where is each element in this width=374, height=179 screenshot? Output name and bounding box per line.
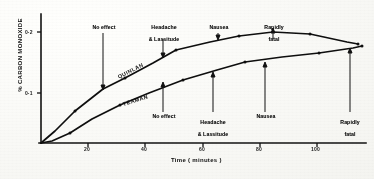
- annotation-top-rapidly-fatal-line1: Rapidly: [264, 24, 283, 30]
- y-axis-title: % CARBON MONOXIDE: [17, 5, 23, 105]
- annotation-top-rapidly-fatal-line2: fatal: [268, 36, 279, 42]
- y-tick-label-0-1: 0·1: [25, 90, 33, 96]
- annotation-bottom-nausea: Nausea: [246, 113, 286, 119]
- annotation-top-headache-line1: Headache: [151, 24, 176, 30]
- annotation-arrows-bottom: [161, 48, 352, 112]
- annotation-top-rapidly-fatal: Rapidly fatal: [255, 18, 293, 42]
- chart-svg: [0, 0, 374, 179]
- annotation-top-headache: Headache & Lassitude: [141, 18, 187, 42]
- x-axis-title: Time ( minutes ): [171, 157, 222, 163]
- annotation-top-no-effect: No effect: [84, 24, 124, 30]
- annotation-bottom-headache: Headache & Lassitude: [190, 113, 236, 137]
- annotation-bottom-headache-line2: & Lassitude: [198, 131, 229, 137]
- annotation-top-headache-line2: & Lassitude: [149, 36, 180, 42]
- x-tick-label-40: 40: [141, 146, 147, 152]
- y-tick-label-0-2: 0·2: [25, 29, 33, 35]
- x-tick-label-80: 80: [256, 146, 262, 152]
- annotation-top-nausea: Nausea: [199, 24, 239, 30]
- annotation-bottom-no-effect: No effect: [144, 113, 184, 119]
- annotation-bottom-rapidly-fatal-line1: Rapidly: [340, 119, 359, 125]
- annotation-arrows-top: [101, 28, 275, 90]
- annotation-bottom-headache-line1: Headache: [200, 119, 225, 125]
- chart-canvas: [0, 0, 374, 179]
- annotation-bottom-rapidly-fatal: Rapidly fatal: [331, 113, 369, 137]
- x-tick-label-60: 60: [199, 146, 205, 152]
- x-tick-label-100: 100: [311, 146, 320, 152]
- annotation-bottom-rapidly-fatal-line2: fatal: [344, 131, 355, 137]
- x-tick-label-20: 20: [84, 146, 90, 152]
- series-quinlan-markers: [74, 33, 360, 113]
